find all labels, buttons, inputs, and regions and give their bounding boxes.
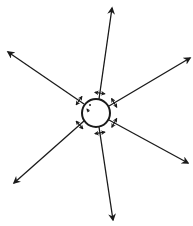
double-arrow-bottom xyxy=(95,132,105,133)
radial-force-diagram xyxy=(0,0,193,226)
double-arrow-lower-right xyxy=(112,118,117,127)
center-dot-mark xyxy=(89,104,91,106)
ray-arrow-top xyxy=(99,8,112,99)
double-arrow-upper-left xyxy=(76,96,82,104)
ray-arrow-bottom xyxy=(99,127,113,220)
ray-arrow-lower-right xyxy=(109,120,188,163)
double-arrow-upper-right xyxy=(112,99,117,108)
ray-arrow-upper-right xyxy=(109,58,190,106)
double-arrow-top xyxy=(95,92,105,93)
center-circle xyxy=(82,99,110,127)
ray-arrow-lower-left xyxy=(14,121,84,183)
ray-arrow-upper-left xyxy=(8,52,84,104)
center-small-arrow xyxy=(87,109,89,112)
